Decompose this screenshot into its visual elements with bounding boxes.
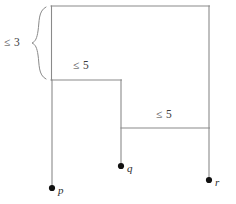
edge-label-branch-two: ≤ 5 xyxy=(156,108,172,120)
node-label-r: r xyxy=(215,176,219,188)
curly-brace-icon xyxy=(32,7,46,79)
node-dot-q xyxy=(118,163,124,169)
node-label-p: p xyxy=(58,184,64,196)
diagram-root: ≤ 3 ≤ 5 ≤ 5 p q r xyxy=(0,0,236,204)
node-dot-r xyxy=(206,177,212,183)
edge-label-branch-one: ≤ 5 xyxy=(73,59,89,71)
node-label-q: q xyxy=(127,162,133,174)
diagram-canvas xyxy=(0,0,236,204)
edge-label-root-bound: ≤ 3 xyxy=(4,36,20,48)
node-dot-p xyxy=(49,185,55,191)
